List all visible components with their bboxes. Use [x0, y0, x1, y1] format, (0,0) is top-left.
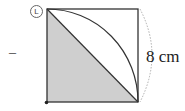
dash-mark: – — [9, 45, 16, 61]
dimension-label: 8 cm — [146, 47, 180, 67]
corner-dot — [45, 101, 49, 105]
figure-tag: L — [30, 5, 43, 18]
